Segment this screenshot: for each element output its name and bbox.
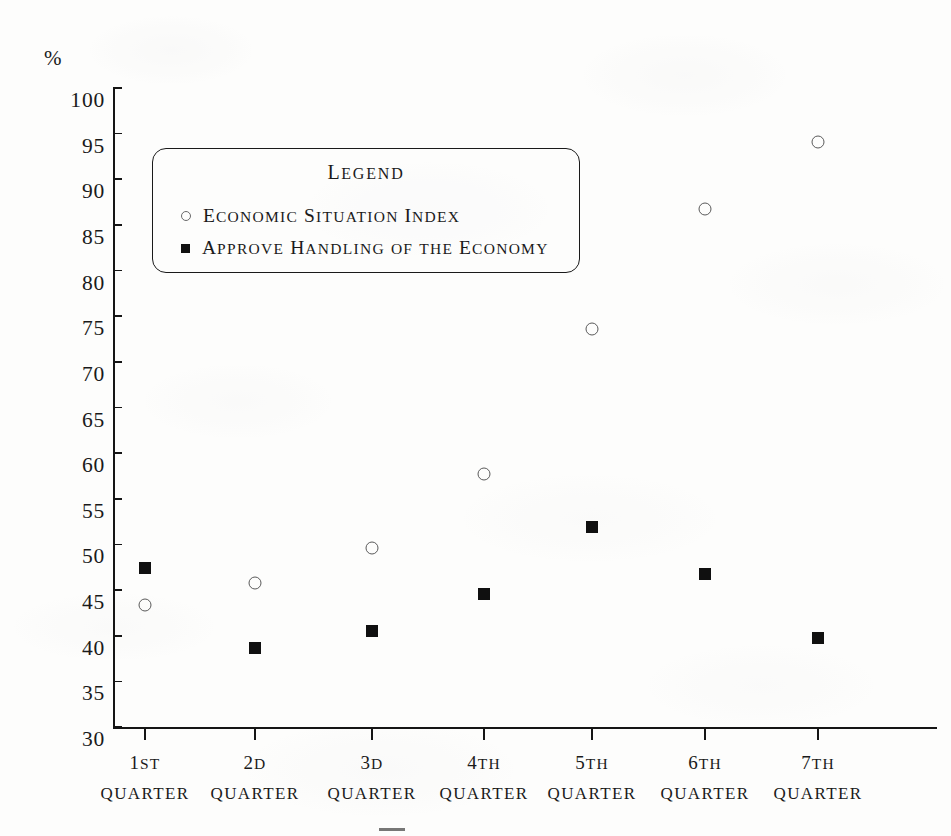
y-axis-tick-label: 90 (43, 179, 105, 204)
filled-square-marker-icon (181, 244, 190, 253)
plot-area: % 1009590858075706560555045403530 1STQUA… (0, 0, 951, 836)
y-axis-tick-label: 85 (43, 225, 105, 250)
x-axis-tick (483, 727, 485, 740)
y-axis-tick (113, 178, 122, 180)
y-axis-tick (113, 589, 122, 591)
y-axis-tick (113, 270, 122, 272)
y-axis-tick (113, 407, 122, 409)
y-axis-tick (113, 133, 122, 135)
legend-title: LEGEND (153, 161, 579, 184)
y-axis-tick-label: 35 (43, 681, 105, 706)
data-point-square (139, 562, 151, 574)
x-axis-line (113, 727, 937, 729)
legend-item-economic-situation-index: ECONOMIC SITUATION INDEX (181, 202, 565, 230)
data-point-square (699, 568, 711, 580)
y-axis-tick-label: 70 (43, 362, 105, 387)
legend-item-label: APPROVE HANDLING OF THE ECONOMY (202, 237, 549, 259)
data-point-square (478, 588, 490, 600)
y-axis-tick (113, 544, 122, 546)
y-axis-tick (113, 315, 122, 317)
y-axis-tick-label: 65 (43, 408, 105, 433)
y-axis-tick (113, 681, 122, 683)
x-axis-tick (817, 727, 819, 740)
x-axis-tick (144, 727, 146, 740)
x-axis-tick (371, 727, 373, 740)
y-axis-tick (113, 726, 122, 728)
chart-page: % 1009590858075706560555045403530 1STQUA… (0, 0, 951, 836)
y-axis-tick-label: 100 (43, 88, 105, 113)
data-point-square (812, 632, 824, 644)
y-axis-tick (113, 361, 122, 363)
y-axis-tick-label: 40 (43, 636, 105, 661)
y-axis-tick-label: 55 (43, 499, 105, 524)
open-circle-marker-icon (181, 211, 191, 221)
data-point-circle (699, 203, 712, 216)
y-axis-tick-label: 95 (43, 134, 105, 159)
x-axis-tick (704, 727, 706, 740)
legend-item-label: ECONOMIC SITUATION INDEX (203, 205, 460, 227)
y-axis-tick-label: 60 (43, 453, 105, 478)
y-axis-tick (113, 224, 122, 226)
y-axis-tick (113, 498, 122, 500)
data-point-circle (478, 468, 491, 481)
y-axis-tick-label: 45 (43, 590, 105, 615)
y-axis-tick-label: 80 (43, 271, 105, 296)
y-axis-tick-label: 50 (43, 544, 105, 569)
caption-remnant (379, 828, 405, 831)
x-axis-tick (254, 727, 256, 740)
data-point-square (586, 521, 598, 533)
y-axis-tick (113, 452, 122, 454)
y-axis-tick (113, 635, 122, 637)
y-axis-tick (113, 87, 122, 89)
legend-item-approve-handling-of-the-economy: APPROVE HANDLING OF THE ECONOMY (181, 234, 565, 262)
y-axis-tick-label: 75 (43, 316, 105, 341)
x-axis-tick-label: 7THQUARTER (733, 748, 903, 809)
data-point-circle (249, 576, 262, 589)
data-point-circle (366, 542, 379, 555)
data-point-square (366, 625, 378, 637)
data-point-circle (139, 598, 152, 611)
legend: LEGEND ECONOMIC SITUATION INDEX APPROVE … (152, 148, 580, 273)
data-point-square (249, 642, 261, 654)
data-point-circle (812, 135, 825, 148)
y-axis-unit-label: % (44, 46, 62, 71)
x-axis-tick (591, 727, 593, 740)
data-point-circle (586, 322, 599, 335)
